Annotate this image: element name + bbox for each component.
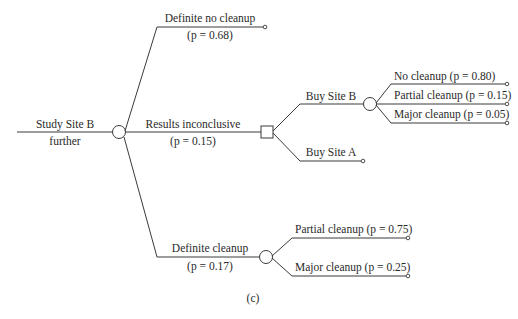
root-label-line2: further xyxy=(49,135,80,147)
figure-caption: (c) xyxy=(247,292,260,305)
outcome-label-major-cleanup-2: Major cleanup (p = 0.25) xyxy=(295,261,411,274)
outcome-label-no-cleanup: No cleanup (p = 0.80) xyxy=(394,70,496,83)
decision-tree-diagram: Study Site B further Definite no cleanup… xyxy=(0,0,518,319)
option-label-buy-site-a: Buy Site A xyxy=(306,146,357,159)
branch-line-definite-cleanup xyxy=(124,137,260,257)
terminal-node-icon xyxy=(263,25,267,29)
buy-b-chance-node xyxy=(364,98,377,111)
root-chance-node xyxy=(113,126,126,139)
branch-line-no-cleanup xyxy=(125,27,263,131)
branch-label-no-cleanup: Definite no cleanup xyxy=(165,12,256,25)
definite-cleanup-chance-node xyxy=(260,251,273,264)
root-label-line1: Study Site B xyxy=(36,118,94,131)
terminal-node-icon xyxy=(505,102,509,106)
branch-prob-inconclusive: (p = 0.15) xyxy=(170,135,216,148)
outcome-label-partial-cleanup: Partial cleanup (p = 0.15) xyxy=(394,89,511,102)
outcome-label-partial-cleanup-2: Partial cleanup (p = 0.75) xyxy=(295,223,412,236)
branch-prob-no-cleanup: (p = 0.68) xyxy=(187,29,233,42)
terminal-node-icon xyxy=(505,82,509,86)
terminal-node-icon xyxy=(361,159,365,163)
terminal-node-icon xyxy=(406,274,410,278)
option-label-buy-site-b: Buy Site B xyxy=(306,90,357,103)
terminal-node-icon xyxy=(406,236,410,240)
branch-label-definite-cleanup: Definite cleanup xyxy=(172,242,249,255)
outcome-line-partial-cleanup-2 xyxy=(272,238,406,256)
outcome-label-major-cleanup: Major cleanup (p = 0.05) xyxy=(394,108,510,121)
decision-node xyxy=(261,126,273,138)
terminal-node-icon xyxy=(505,121,509,125)
branch-prob-definite-cleanup: (p = 0.17) xyxy=(187,260,233,273)
branch-label-inconclusive: Results inconclusive xyxy=(146,118,241,130)
branch-line-buy-site-b xyxy=(273,104,364,131)
